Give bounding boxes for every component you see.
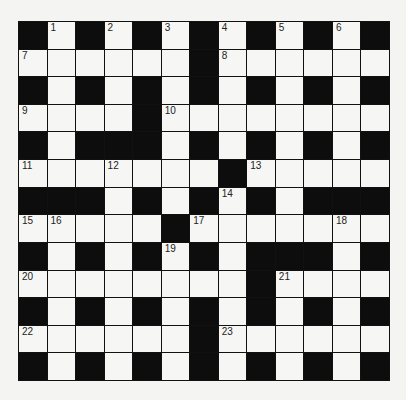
crossword-cell[interactable]: 20 <box>19 271 47 298</box>
crossword-cell[interactable] <box>133 215 161 242</box>
crossword-cell[interactable] <box>333 50 361 77</box>
crossword-cell[interactable]: 12 <box>105 160 133 187</box>
crossword-cell[interactable] <box>219 77 247 104</box>
crossword-cell[interactable] <box>276 105 304 132</box>
crossword-cell[interactable] <box>219 215 247 242</box>
crossword-cell[interactable] <box>105 188 133 215</box>
crossword-cell[interactable] <box>105 326 133 353</box>
crossword-cell[interactable] <box>105 105 133 132</box>
crossword-cell[interactable] <box>333 271 361 298</box>
crossword-cell[interactable] <box>105 271 133 298</box>
crossword-cell[interactable] <box>333 326 361 353</box>
crossword-cell[interactable] <box>247 105 275 132</box>
crossword-cell[interactable] <box>105 215 133 242</box>
crossword-cell[interactable] <box>190 105 218 132</box>
crossword-cell[interactable]: 23 <box>219 326 247 353</box>
crossword-cell[interactable] <box>190 271 218 298</box>
crossword-cell[interactable] <box>333 353 361 380</box>
crossword-cell[interactable] <box>361 50 389 77</box>
crossword-cell[interactable]: 7 <box>19 50 47 77</box>
crossword-cell[interactable] <box>219 132 247 159</box>
crossword-cell[interactable]: 9 <box>19 105 47 132</box>
crossword-cell[interactable]: 11 <box>19 160 47 187</box>
crossword-cell[interactable] <box>276 77 304 104</box>
crossword-cell[interactable] <box>76 215 104 242</box>
crossword-cell[interactable] <box>48 271 76 298</box>
crossword-cell[interactable] <box>105 77 133 104</box>
crossword-cell[interactable] <box>276 132 304 159</box>
crossword-cell[interactable]: 1 <box>48 22 76 49</box>
crossword-cell[interactable] <box>304 326 332 353</box>
crossword-cell[interactable] <box>133 326 161 353</box>
crossword-cell[interactable] <box>276 50 304 77</box>
crossword-cell[interactable] <box>162 326 190 353</box>
crossword-cell[interactable] <box>361 271 389 298</box>
crossword-cell[interactable] <box>76 326 104 353</box>
crossword-cell[interactable] <box>333 77 361 104</box>
crossword-cell[interactable]: 17 <box>190 215 218 242</box>
crossword-cell[interactable] <box>48 160 76 187</box>
crossword-cell[interactable]: 14 <box>219 188 247 215</box>
crossword-cell[interactable] <box>333 160 361 187</box>
crossword-cell[interactable] <box>276 353 304 380</box>
crossword-cell[interactable] <box>48 353 76 380</box>
crossword-cell[interactable] <box>76 271 104 298</box>
crossword-cell[interactable] <box>361 326 389 353</box>
crossword-cell[interactable]: 5 <box>276 22 304 49</box>
crossword-cell[interactable] <box>105 298 133 325</box>
crossword-cell[interactable] <box>162 160 190 187</box>
crossword-cell[interactable]: 3 <box>162 22 190 49</box>
crossword-cell[interactable] <box>76 105 104 132</box>
crossword-cell[interactable]: 15 <box>19 215 47 242</box>
crossword-cell[interactable] <box>361 215 389 242</box>
crossword-cell[interactable] <box>361 160 389 187</box>
crossword-cell[interactable] <box>247 326 275 353</box>
crossword-cell[interactable]: 2 <box>105 22 133 49</box>
crossword-cell[interactable] <box>48 132 76 159</box>
crossword-cell[interactable] <box>76 50 104 77</box>
crossword-cell[interactable]: 18 <box>333 215 361 242</box>
crossword-cell[interactable]: 10 <box>162 105 190 132</box>
crossword-cell[interactable] <box>48 243 76 270</box>
crossword-cell[interactable] <box>162 50 190 77</box>
crossword-cell[interactable]: 13 <box>247 160 275 187</box>
crossword-cell[interactable] <box>48 326 76 353</box>
crossword-cell[interactable] <box>219 105 247 132</box>
crossword-cell[interactable] <box>276 188 304 215</box>
crossword-cell[interactable] <box>219 271 247 298</box>
crossword-cell[interactable] <box>304 105 332 132</box>
crossword-cell[interactable] <box>162 132 190 159</box>
crossword-cell[interactable] <box>333 243 361 270</box>
crossword-cell[interactable] <box>276 326 304 353</box>
crossword-cell[interactable]: 6 <box>333 22 361 49</box>
crossword-cell[interactable] <box>133 160 161 187</box>
crossword-cell[interactable] <box>304 160 332 187</box>
crossword-cell[interactable] <box>48 50 76 77</box>
crossword-cell[interactable] <box>304 215 332 242</box>
crossword-cell[interactable]: 22 <box>19 326 47 353</box>
crossword-cell[interactable] <box>162 353 190 380</box>
crossword-cell[interactable] <box>333 105 361 132</box>
crossword-cell[interactable] <box>304 50 332 77</box>
crossword-cell[interactable] <box>162 77 190 104</box>
crossword-cell[interactable] <box>219 243 247 270</box>
crossword-cell[interactable]: 4 <box>219 22 247 49</box>
crossword-cell[interactable] <box>219 298 247 325</box>
crossword-cell[interactable] <box>276 298 304 325</box>
crossword-cell[interactable] <box>133 50 161 77</box>
crossword-cell[interactable] <box>162 298 190 325</box>
crossword-cell[interactable] <box>190 160 218 187</box>
crossword-cell[interactable]: 21 <box>276 271 304 298</box>
crossword-cell[interactable] <box>133 271 161 298</box>
crossword-cell[interactable] <box>247 215 275 242</box>
crossword-cell[interactable] <box>361 105 389 132</box>
crossword-cell[interactable] <box>247 50 275 77</box>
crossword-cell[interactable] <box>162 271 190 298</box>
crossword-cell[interactable] <box>219 353 247 380</box>
crossword-cell[interactable] <box>276 160 304 187</box>
crossword-cell[interactable] <box>105 243 133 270</box>
crossword-cell[interactable] <box>76 160 104 187</box>
crossword-cell[interactable] <box>48 77 76 104</box>
crossword-cell[interactable] <box>105 50 133 77</box>
crossword-cell[interactable] <box>162 188 190 215</box>
